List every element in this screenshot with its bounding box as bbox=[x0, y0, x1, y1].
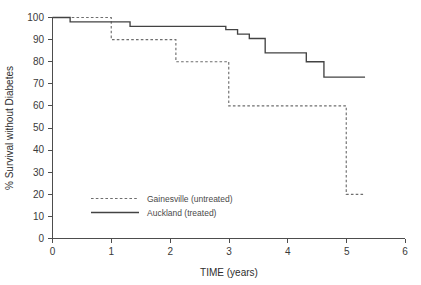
y-tick-label-50: 50 bbox=[33, 122, 45, 133]
legend: Gainesville (untreated) Auckland (treate… bbox=[91, 194, 233, 218]
x-tick-label-4: 4 bbox=[285, 246, 291, 257]
y-tick-label-100: 100 bbox=[27, 12, 44, 23]
x-tick-label-5: 5 bbox=[344, 246, 350, 257]
x-tick-label-3: 3 bbox=[226, 246, 232, 257]
y-axis-title: % Survival without Diabetes bbox=[4, 66, 15, 190]
x-tick-label-0: 0 bbox=[50, 246, 56, 257]
x-tick-label-6: 6 bbox=[402, 246, 408, 257]
legend-label-gainesville: Gainesville (untreated) bbox=[147, 194, 233, 204]
y-tick-label-20: 20 bbox=[33, 189, 45, 200]
x-tick-label-1: 1 bbox=[109, 246, 115, 257]
y-tick-label-60: 60 bbox=[33, 100, 45, 111]
y-tick-label-40: 40 bbox=[33, 144, 45, 155]
x-axis-ticks: 0 1 2 3 4 5 6 bbox=[50, 239, 409, 258]
x-tick-label-2: 2 bbox=[167, 246, 173, 257]
series-line-gainesville-untreated bbox=[53, 18, 364, 195]
y-tick-label-90: 90 bbox=[33, 34, 45, 45]
x-axis-title: TIME (years) bbox=[200, 267, 258, 278]
chart-container: 0 10 20 30 40 50 60 70 80 90 100 0 1 2 3… bbox=[0, 0, 421, 285]
y-tick-label-30: 30 bbox=[33, 167, 45, 178]
y-tick-label-10: 10 bbox=[33, 211, 45, 222]
y-tick-label-80: 80 bbox=[33, 56, 45, 67]
series-line-auckland-treated bbox=[53, 18, 366, 78]
axes bbox=[53, 17, 406, 239]
y-tick-label-70: 70 bbox=[33, 78, 45, 89]
y-axis-ticks: 0 10 20 30 40 50 60 70 80 90 100 bbox=[27, 12, 52, 244]
y-tick-label-0: 0 bbox=[38, 233, 44, 244]
legend-label-auckland: Auckland (treated) bbox=[147, 208, 217, 218]
survival-plot: 0 10 20 30 40 50 60 70 80 90 100 0 1 2 3… bbox=[0, 0, 421, 285]
